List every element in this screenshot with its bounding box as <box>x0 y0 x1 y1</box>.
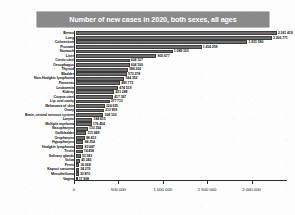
axis-tick-label: 0 <box>73 187 75 192</box>
bar-row: Vagina17 908 <box>0 177 295 182</box>
chart-title-banner: Number of new cases in 2020, both sexes,… <box>37 12 269 27</box>
bar-rows: Breast2 261 419Lung2 206 771Colorectum1 … <box>0 31 295 181</box>
bar-chart: Breast2 261 419Lung2 206 771Colorectum1 … <box>0 31 295 191</box>
axis-tick-label: 1 500 000 <box>198 187 217 192</box>
bar-track: 17 908 <box>76 177 289 182</box>
axis-tick <box>74 181 75 184</box>
chart-page: Number of new cases in 2020, both sexes,… <box>0 0 295 215</box>
bar-category-label: Vagina <box>0 177 76 182</box>
axis-tick-label: 500 000 <box>111 187 126 192</box>
bar-value-label: 17 908 <box>78 177 89 182</box>
axis-tick <box>207 181 208 184</box>
axis-tick-label: 1 000 000 <box>153 187 172 192</box>
axis-tick <box>118 181 119 184</box>
axis-tick <box>252 181 253 184</box>
page-title: Number of new cases in 2020, both sexes,… <box>69 15 236 24</box>
axis-tick-label: 2 000 000 <box>242 187 261 192</box>
axis-tick <box>163 181 164 184</box>
